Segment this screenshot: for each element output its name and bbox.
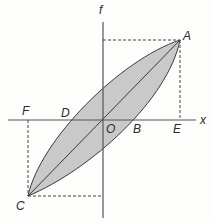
axis-label-f: f: [99, 3, 104, 17]
axis-label-x: x: [199, 113, 207, 127]
point-label-a: A: [182, 29, 191, 43]
point-label-f: F: [22, 104, 30, 118]
point-label-c: C: [16, 199, 25, 213]
diagram-svg: f x A C D F O B E: [0, 0, 214, 223]
diagram-canvas: f x A C D F O B E: [0, 0, 214, 223]
diagonal-line: [28, 40, 180, 196]
point-label-e: E: [173, 122, 182, 136]
point-label-o: O: [106, 122, 115, 136]
point-label-b: B: [133, 122, 141, 136]
point-label-d: D: [61, 106, 70, 120]
